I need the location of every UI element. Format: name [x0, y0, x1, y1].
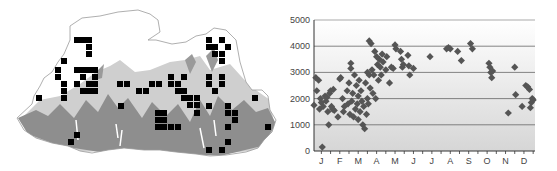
x-tick-label: F [337, 156, 343, 166]
occurrence-square [86, 37, 92, 43]
occurrence-square [143, 88, 149, 94]
occurrence-square [168, 81, 174, 87]
x-tick-label: J [411, 156, 416, 166]
elevation-by-month-scatter: 010002000300040005000 JFMAMJJASOND [280, 0, 557, 171]
occurrence-square [225, 124, 231, 130]
occurrence-square [55, 67, 61, 73]
occurrence-square [86, 51, 92, 57]
y-axis-ticks: 010002000300040005000 [290, 15, 310, 156]
occurrence-square [68, 139, 74, 145]
occurrence-square [206, 147, 212, 153]
x-tick-label: J [430, 156, 435, 166]
occurrence-square [92, 88, 98, 94]
occurrence-square [124, 81, 130, 87]
occurrence-square [61, 88, 67, 94]
y-tick-label: 1000 [290, 120, 310, 130]
occurrence-square [86, 44, 92, 50]
occurrence-square [219, 147, 225, 153]
occurrence-square [92, 81, 98, 87]
occurrence-square [61, 58, 67, 64]
occurrence-square [181, 95, 187, 101]
occurrence-square [194, 95, 200, 101]
occurrence-square [265, 124, 271, 130]
occurrence-square [80, 74, 86, 80]
occurrence-square [225, 110, 231, 116]
occurrence-square [181, 74, 187, 80]
occurrence-square [175, 124, 181, 130]
occurrence-square [194, 102, 200, 108]
x-tick-label: J [319, 156, 324, 166]
occurrence-square [80, 37, 86, 43]
occurrence-square [74, 37, 80, 43]
occurrence-square [187, 95, 193, 101]
occurrence-square [155, 124, 161, 130]
occurrence-square [225, 44, 231, 50]
occurrence-square [55, 74, 61, 80]
occurrence-square [225, 103, 231, 109]
occurrence-square [36, 95, 42, 101]
occurrence-square [206, 103, 212, 109]
occurrence-square [74, 81, 80, 87]
x-axis-ticks: JFMAMJJASOND [319, 151, 533, 166]
occurrence-square [206, 81, 212, 87]
occurrence-square [168, 74, 174, 80]
occurrence-square [161, 110, 167, 116]
occurrence-square [86, 88, 92, 94]
bhutan-elevation-map [0, 0, 290, 171]
x-tick-label: N [502, 156, 509, 166]
y-tick-label: 3000 [290, 67, 310, 77]
occurrence-square [118, 103, 124, 109]
plot-area [314, 20, 535, 151]
occurrence-square [80, 88, 86, 94]
x-tick-label: S [466, 156, 472, 166]
occurrence-square [155, 110, 161, 116]
y-tick-label: 5000 [290, 15, 310, 25]
y-tick-label: 4000 [290, 41, 310, 51]
occurrence-square [219, 37, 225, 43]
occurrence-square [232, 117, 238, 123]
occurrence-square [181, 88, 187, 94]
occurrence-square [175, 81, 181, 87]
occurrence-square [219, 51, 225, 57]
occurrence-square [61, 81, 67, 87]
occurrence-square [156, 81, 162, 87]
occurrence-square [194, 110, 200, 116]
occurrence-square [117, 81, 123, 87]
occurrence-square [74, 132, 80, 138]
occurrence-square [86, 67, 92, 73]
occurrence-square [149, 81, 155, 87]
occurrence-square [86, 81, 92, 87]
occurrence-square [61, 95, 67, 101]
occurrence-square [252, 95, 258, 101]
occurrence-square [206, 37, 212, 43]
occurrence-square [80, 67, 86, 73]
x-tick-label: A [374, 156, 380, 166]
occurrence-square [74, 67, 80, 73]
x-tick-label: M [391, 156, 399, 166]
x-tick-label: A [447, 156, 453, 166]
x-tick-label: O [484, 156, 491, 166]
occurrence-square [161, 124, 167, 130]
occurrence-square [232, 110, 238, 116]
occurrence-square [168, 124, 174, 130]
occurrence-square [175, 88, 181, 94]
occurrence-square [92, 67, 98, 73]
occurrence-square [212, 88, 218, 94]
occurrence-square [212, 44, 218, 50]
occurrence-square [187, 102, 193, 108]
occurrence-square [206, 74, 212, 80]
x-tick-label: M [354, 156, 362, 166]
occurrence-square [225, 139, 231, 145]
occurrence-square [219, 74, 225, 80]
occurrence-square [136, 88, 142, 94]
occurrence-square [155, 117, 161, 123]
occurrence-square [219, 58, 225, 64]
y-tick-label: 0 [305, 146, 310, 156]
occurrence-square [206, 44, 212, 50]
occurrence-square [219, 81, 225, 87]
occurrence-square [212, 51, 218, 57]
occurrence-square [161, 117, 167, 123]
x-tick-label: D [521, 156, 528, 166]
occurrence-square [92, 74, 98, 80]
y-tick-label: 2000 [290, 94, 310, 104]
